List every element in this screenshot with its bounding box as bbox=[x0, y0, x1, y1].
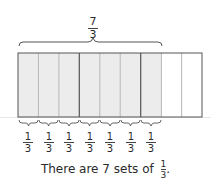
unit-fraction-label: 1 3 bbox=[124, 132, 138, 153]
total-denominator: 3 bbox=[86, 30, 100, 40]
unit-numerator: 1 bbox=[42, 132, 56, 141]
unit-fraction-label: 1 3 bbox=[83, 132, 97, 153]
total-numerator: 7 bbox=[86, 17, 100, 27]
unit-denominator: 3 bbox=[103, 144, 117, 153]
unit-numerator: 1 bbox=[62, 132, 76, 141]
unit-denominator: 3 bbox=[83, 144, 97, 153]
unit-denominator: 3 bbox=[124, 144, 138, 153]
unit-braces bbox=[19, 120, 161, 126]
unit-numerator: 1 bbox=[83, 132, 97, 141]
unit-numerator: 1 bbox=[103, 132, 117, 141]
bar-cells bbox=[18, 53, 202, 117]
unit-numerator: 1 bbox=[124, 132, 138, 141]
unit-fraction-label: 1 3 bbox=[62, 132, 76, 153]
caption-text: There are 7 sets of bbox=[41, 162, 154, 176]
unit-fraction-label: 1 3 bbox=[42, 132, 56, 153]
unit-denominator: 3 bbox=[42, 144, 56, 153]
unit-numerator: 1 bbox=[21, 132, 35, 141]
caption-period: . bbox=[166, 162, 170, 176]
total-fraction-label: 7 3 bbox=[86, 17, 100, 40]
caption: There are 7 sets of 1 3 . bbox=[0, 160, 211, 179]
unit-fraction-label: 1 3 bbox=[144, 132, 158, 153]
unit-denominator: 3 bbox=[62, 144, 76, 153]
unit-denominator: 3 bbox=[21, 144, 35, 153]
unit-fraction-label: 1 3 bbox=[21, 132, 35, 153]
unit-fraction-label: 1 3 bbox=[103, 132, 117, 153]
unit-denominator: 3 bbox=[144, 144, 158, 153]
unit-numerator: 1 bbox=[144, 132, 158, 141]
